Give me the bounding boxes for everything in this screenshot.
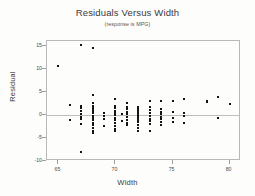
x-axis-title: Width: [0, 178, 255, 187]
data-point: [137, 130, 139, 132]
chart-root: Residuals Versus Width (response is MPG)…: [0, 0, 255, 196]
y-axis-tick-label: 10: [26, 65, 42, 71]
chart-title: Residuals Versus Width: [0, 7, 255, 18]
data-point: [114, 105, 116, 107]
data-point: [126, 113, 128, 115]
data-point: [103, 125, 105, 127]
data-point: [229, 103, 231, 105]
data-point: [183, 98, 185, 100]
data-point: [114, 125, 116, 127]
data-point: [172, 100, 174, 102]
data-point: [92, 102, 94, 104]
data-point: [92, 47, 94, 49]
y-axis-tick-label: -5: [26, 134, 42, 140]
data-point: [172, 111, 174, 113]
data-point: [126, 102, 128, 104]
plot-area: [46, 40, 240, 160]
data-point: [217, 96, 219, 98]
data-point: [183, 122, 185, 124]
y-axis-tick-label: 0: [26, 111, 42, 117]
data-point: [149, 109, 151, 111]
data-point: [80, 116, 82, 118]
data-point: [172, 121, 174, 123]
data-point: [57, 65, 59, 67]
data-point: [103, 112, 105, 114]
x-axis-tick: [172, 160, 173, 164]
data-point: [80, 113, 82, 115]
data-point: [92, 127, 94, 129]
y-axis-tick-label: -10: [26, 157, 42, 163]
data-point: [137, 127, 139, 129]
data-point: [183, 115, 185, 117]
data-point: [114, 98, 116, 100]
data-point: [103, 118, 105, 120]
data-point: [92, 124, 94, 126]
data-point: [80, 118, 82, 120]
x-axis-tick: [57, 160, 58, 164]
chart-subtitle: (response is MPG): [0, 21, 255, 27]
data-point: [126, 119, 128, 121]
data-point: [137, 124, 139, 126]
data-point: [149, 130, 151, 132]
data-point: [80, 123, 82, 125]
data-point: [69, 119, 71, 121]
data-point: [114, 117, 116, 119]
data-point: [149, 115, 151, 117]
data-point: [69, 104, 71, 106]
y-axis-tick-label: 15: [26, 42, 42, 48]
data-point: [114, 119, 116, 121]
y-axis-title: Residual: [8, 57, 17, 117]
data-point: [103, 115, 105, 117]
data-point: [149, 100, 151, 102]
x-axis-tick-label: 65: [49, 166, 65, 172]
data-point: [149, 106, 151, 108]
data-point: [183, 112, 185, 114]
y-axis-tick-label: 5: [26, 88, 42, 94]
data-point: [80, 110, 82, 112]
data-point: [160, 116, 162, 118]
data-point: [126, 122, 128, 124]
data-point: [217, 117, 219, 119]
data-point: [114, 128, 116, 130]
data-point: [121, 113, 123, 115]
data-point: [126, 124, 128, 126]
data-point: [172, 117, 174, 119]
x-axis-tick: [229, 160, 230, 164]
data-point: [92, 94, 94, 96]
data-point: [92, 132, 94, 134]
data-point: [114, 122, 116, 124]
data-point: [121, 120, 123, 122]
x-axis-tick: [114, 160, 115, 164]
data-point: [80, 151, 82, 153]
data-point: [160, 100, 162, 102]
data-point: [126, 116, 128, 118]
data-point: [149, 123, 151, 125]
data-point: [80, 44, 82, 46]
data-point: [160, 113, 162, 115]
data-point: [126, 106, 128, 108]
data-point: [160, 118, 162, 120]
x-axis-tick-label: 70: [106, 166, 122, 172]
zero-reference-line: [47, 115, 239, 116]
x-axis-tick-label: 75: [164, 166, 180, 172]
x-axis-tick-label: 80: [221, 166, 237, 172]
data-point: [149, 120, 151, 122]
data-point: [80, 107, 82, 109]
data-point: [206, 101, 208, 103]
data-point: [92, 130, 94, 132]
y-axis-tick: [42, 160, 46, 161]
data-point: [80, 105, 82, 107]
data-point: [126, 108, 128, 110]
data-point: [149, 112, 151, 114]
data-point: [149, 118, 151, 120]
data-point: [160, 121, 162, 123]
data-point: [114, 130, 116, 132]
data-point: [160, 124, 162, 126]
